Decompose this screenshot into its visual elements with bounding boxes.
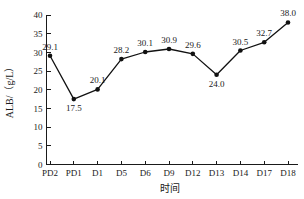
x-tick-label: D13 (209, 168, 225, 178)
data-point-label: 30.1 (137, 38, 153, 48)
data-point-marker (167, 47, 172, 52)
x-axis-title: 时间 (160, 182, 180, 194)
x-tick-labels: PD2PD1D1D5D6D9D12D13D14D17D18 (42, 168, 296, 178)
x-tick-marks (50, 161, 288, 165)
series-line (50, 22, 288, 99)
data-point-marker (191, 52, 196, 57)
data-point-label: 38.0 (280, 8, 296, 18)
data-point-marker (238, 48, 243, 53)
data-point-marker (214, 73, 219, 78)
chart-canvas: 0510152025303540 ALB/（g/L） PD2PD1D1D5D6D… (0, 0, 304, 199)
y-tick-label: 15 (34, 104, 44, 114)
albumin-line-chart: 0510152025303540 ALB/（g/L） PD2PD1D1D5D6D… (0, 0, 304, 199)
x-tick-label: D12 (185, 168, 201, 178)
data-point-marker (72, 97, 77, 102)
x-tick-label: D18 (280, 168, 296, 178)
data-point-label: 29.6 (185, 40, 201, 50)
data-point-marker (95, 87, 100, 92)
y-tick-labels: 0510152025303540 (34, 10, 44, 170)
x-tick-label: D14 (233, 168, 249, 178)
y-tick-label: 35 (34, 29, 44, 39)
y-tick-marks (47, 15, 51, 165)
y-tick-label: 40 (34, 10, 44, 20)
data-point-marker (119, 57, 124, 62)
x-tick-label: D5 (116, 168, 127, 178)
y-tick-label: 20 (34, 85, 44, 95)
x-tick-label: D1 (92, 168, 103, 178)
data-point-marker (48, 53, 53, 58)
y-tick-label: 5 (38, 141, 43, 151)
y-tick-label: 25 (34, 66, 44, 76)
y-axis-title: ALB/（g/L） (4, 62, 15, 119)
x-tick-label: PD1 (66, 168, 82, 178)
y-tick-label: 10 (34, 122, 44, 132)
data-point-label: 28.2 (114, 45, 130, 55)
data-series: 29.117.520.128.230.130.929.624.030.532.7… (42, 8, 296, 113)
data-point-label: 20.1 (90, 75, 106, 85)
x-axis: PD2PD1D1D5D6D9D12D13D14D17D18 时间 (42, 161, 298, 195)
data-point-label: 24.0 (209, 79, 225, 89)
series-data-labels: 29.117.520.128.230.130.929.624.030.532.7… (42, 8, 296, 113)
data-point-marker (286, 20, 291, 25)
x-tick-label: D6 (140, 168, 151, 178)
data-point-label: 30.9 (161, 35, 177, 45)
data-point-marker (262, 40, 267, 45)
y-axis: 0510152025303540 ALB/（g/L） (4, 10, 51, 170)
x-tick-label: PD2 (42, 168, 58, 178)
x-tick-label: D9 (164, 168, 175, 178)
data-point-marker (143, 50, 148, 55)
data-point-label: 17.5 (66, 103, 82, 113)
x-tick-label: D17 (256, 168, 272, 178)
data-point-label: 32.7 (256, 28, 272, 38)
data-point-label: 30.5 (233, 37, 249, 47)
series-markers (48, 20, 291, 101)
data-point-label: 29.1 (42, 42, 58, 52)
